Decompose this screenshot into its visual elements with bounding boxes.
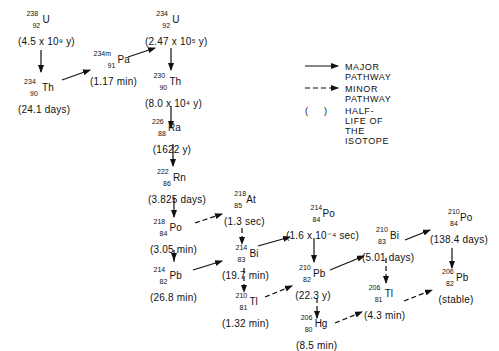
element-symbol: Po: [323, 209, 335, 219]
mass-number: 214: [154, 266, 166, 273]
atomic-number: 81: [240, 304, 248, 311]
nuclide-tl210: 21081Tl (1.32 min): [222, 292, 269, 329]
element-symbol: Rn: [173, 173, 186, 183]
atomic-number: 86: [163, 180, 171, 187]
half-life: (1.17 min): [90, 77, 137, 87]
element-symbol: Th: [169, 77, 181, 87]
nuclide-th230: 23090Th (8.0 x 10⁴ y): [145, 72, 202, 109]
half-life: (1.6 x 10⁻⁴ sec): [286, 231, 359, 241]
atomic-number: 92: [162, 22, 170, 29]
nuclide-po218: 21884Po (3.05 min): [150, 218, 197, 255]
half-life: (stable): [436, 295, 476, 305]
element-symbol: Pb: [170, 271, 182, 281]
element-symbol: Po: [170, 223, 182, 233]
mass-number: 210: [448, 208, 460, 215]
atomic-number: 80: [305, 326, 313, 333]
atomic-number: 90: [159, 84, 167, 91]
mass-number: 226: [152, 118, 164, 125]
nuclide-ra226: 22688Ra (1622 y): [152, 118, 192, 155]
element-symbol: At: [246, 195, 255, 205]
nuclide-pb210: 21082Pb (22.3 y): [293, 264, 333, 301]
nuclide-tl206: 20681Tl (4.3 min): [364, 284, 405, 321]
nuclide-bi210: 21083Bi (5.01 days): [362, 226, 414, 263]
mass-number: 210: [236, 292, 248, 299]
atomic-number: 84: [313, 216, 321, 223]
atomic-number: 88: [158, 130, 166, 137]
atomic-number: 82: [160, 278, 168, 285]
half-life: (138.4 days): [430, 235, 488, 245]
half-life: (5.01 days): [362, 253, 414, 263]
nuclide-pb206: 20682Pb (stable): [436, 268, 476, 305]
mass-number: 218: [234, 190, 246, 197]
mass-number: 210: [376, 226, 388, 233]
atomic-number: 83: [238, 256, 246, 263]
atomic-number: 85: [234, 202, 242, 209]
legend-halflife-label: HALF-LIFE OF THE ISOTOPE: [345, 106, 389, 146]
atomic-number: 83: [378, 238, 386, 245]
half-life: (4.5 x 10⁹ y): [18, 37, 75, 47]
mass-number: 238: [26, 10, 38, 17]
atomic-number: 84: [450, 220, 458, 227]
mass-number: 230: [153, 72, 165, 79]
half-life: (22.3 y): [293, 291, 333, 301]
half-life: (8.0 x 10⁴ y): [145, 99, 202, 109]
element-symbol: Tl: [250, 297, 258, 307]
nuclide-u238: 23892U (4.5 x 10⁹ y): [18, 10, 75, 47]
half-life: (3.825 days): [148, 195, 206, 205]
nuclide-po210: 21084Po (138.4 days): [430, 208, 488, 245]
element-symbol: Bi: [390, 231, 399, 241]
nuclide-bi214: 21483Bi (19.7 min): [222, 244, 269, 281]
legend-minor-label: MINOR PATHWAY: [345, 84, 391, 104]
legend-major-label: MAJOR PATHWAY: [345, 62, 391, 82]
half-life: (1622 y): [152, 145, 192, 155]
nuclide-pb214: 21482Pb (26.8 min): [150, 266, 197, 303]
half-life: (19.7 min): [222, 271, 269, 281]
mass-number: 206: [301, 314, 313, 321]
half-life: (8.5 min): [296, 341, 337, 351]
half-life: (3.05 min): [150, 245, 197, 255]
mass-number: 222: [157, 168, 169, 175]
element-symbol: Pa: [118, 55, 130, 65]
half-life: (24.1 days): [18, 105, 70, 115]
element-symbol: Hg: [315, 319, 328, 329]
element-symbol: Ra: [168, 123, 181, 133]
half-life: (1.32 min): [222, 319, 269, 329]
element-symbol: Pb: [456, 273, 468, 283]
half-life: (26.8 min): [150, 293, 197, 303]
atomic-number: 82: [446, 280, 454, 287]
element-symbol: U: [172, 15, 179, 25]
mass-number: 234: [156, 10, 168, 17]
mass-number: 234: [24, 78, 36, 85]
nuclide-hg206: 20680Hg (8.5 min): [296, 314, 337, 351]
half-life: (2.47 x 10⁵ y): [145, 37, 208, 47]
legend-paren-symbol: ( ): [305, 106, 328, 116]
atomic-number: 81: [375, 296, 383, 303]
nuclide-rn222: 22286Rn (3.825 days): [148, 168, 206, 205]
nuclide-th234: 23490Th (24.1 days): [18, 78, 70, 115]
element-symbol: Tl: [385, 289, 393, 299]
mass-number: 206: [442, 268, 454, 275]
atomic-number: 90: [30, 90, 38, 97]
mass-number: 210: [299, 264, 311, 271]
nuclide-po214: 21484Po (1.6 x 10⁻⁴ sec): [286, 204, 359, 241]
half-life: (1.3 sec): [224, 217, 265, 227]
mass-number: 218: [154, 218, 166, 225]
mass-number: 234m: [94, 50, 112, 57]
half-life: (4.3 min): [364, 311, 405, 321]
element-symbol: Bi: [250, 249, 259, 259]
nuclide-u234: 23492U (2.47 x 10⁵ y): [145, 10, 208, 47]
element-symbol: Pb: [313, 269, 325, 279]
element-symbol: U: [42, 15, 49, 25]
mass-number: 214: [311, 204, 323, 211]
atomic-number: 92: [32, 22, 40, 29]
nuclide-pa234m: 234m91Pa (1.17 min): [90, 50, 137, 87]
atomic-number: 91: [108, 62, 116, 69]
nuclide-at218: 21885At (1.3 sec): [224, 190, 265, 227]
mass-number: 206: [369, 284, 381, 291]
element-symbol: Po: [460, 213, 472, 223]
atomic-number: 84: [160, 230, 168, 237]
atomic-number: 82: [303, 276, 311, 283]
element-symbol: Th: [42, 83, 54, 93]
mass-number: 214: [236, 244, 248, 251]
